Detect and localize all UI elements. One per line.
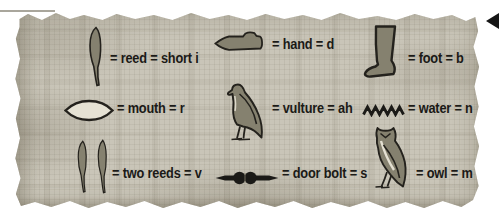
- hand-icon: [214, 30, 264, 56]
- door-bolt-label: = door bolt = s: [282, 166, 367, 181]
- water-icon: [362, 104, 405, 117]
- water-label: = water = n: [408, 101, 473, 116]
- top-left-rule: [0, 10, 55, 12]
- foot-icon: [362, 25, 404, 83]
- vulture-label: = vulture = ah: [272, 101, 353, 116]
- two-reeds-icon: [73, 139, 112, 196]
- hand-label: = hand = d: [272, 37, 334, 52]
- mouth-icon: [64, 99, 114, 122]
- foot-label: = foot = b: [408, 51, 464, 66]
- figure: = reed = short i = hand = d = foot = b =…: [0, 0, 499, 216]
- left-arrowhead-icon: [486, 13, 499, 29]
- reed-label: = reed = short i: [110, 51, 199, 66]
- two-reeds-label: = two reeds = v: [112, 166, 202, 181]
- mouth-label: = mouth = r: [117, 101, 185, 116]
- vulture-icon: [222, 82, 268, 142]
- reed-icon: [83, 26, 107, 88]
- owl-label: = owl = m: [416, 166, 473, 181]
- door-bolt-icon: [214, 169, 280, 187]
- owl-icon: [368, 125, 413, 191]
